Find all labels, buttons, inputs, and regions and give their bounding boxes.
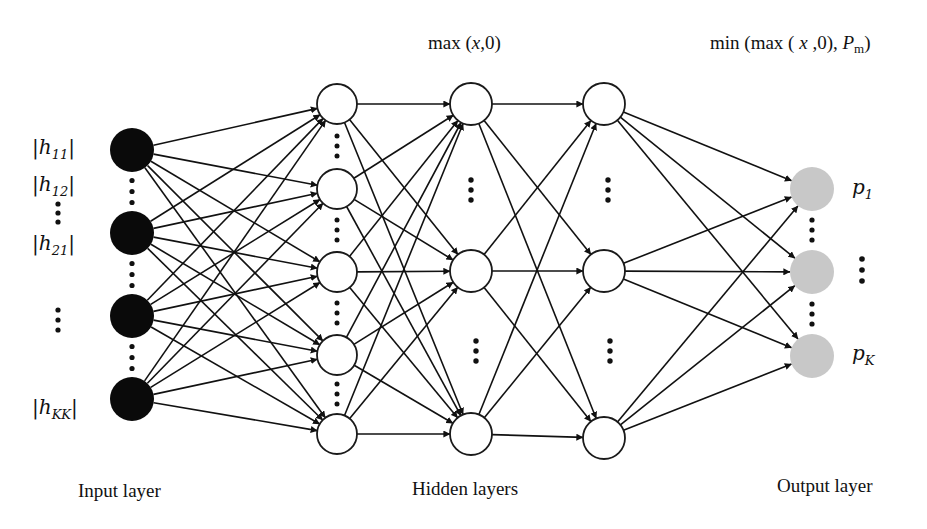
ellipsis-dot — [129, 283, 134, 288]
ellipsis-dot — [468, 197, 473, 202]
ellipsis-dot — [335, 238, 340, 243]
edge — [623, 112, 791, 181]
ellipsis-dot — [468, 177, 473, 182]
output-activation-label: min (max ( x ,0), Pm) — [710, 32, 871, 57]
output-layer-caption: Output layer — [777, 475, 873, 497]
input-node — [110, 211, 154, 255]
ellipsis-dot — [55, 307, 60, 312]
label-sub: 12 — [52, 184, 69, 199]
output-node — [790, 250, 834, 294]
input-node — [110, 128, 154, 172]
act-out-var2: P — [842, 32, 854, 53]
label-base: h — [39, 172, 52, 196]
ellipsis-dot — [605, 177, 610, 182]
label-sub: 11 — [52, 147, 69, 162]
label-base: p — [852, 175, 865, 199]
ellipsis-dot — [335, 392, 340, 397]
input-label-h11: |h11| — [32, 135, 75, 162]
edge — [624, 197, 792, 263]
label-sub: 1 — [865, 187, 873, 202]
ellipsis-dot — [809, 321, 814, 326]
ellipsis-dot — [129, 355, 134, 360]
edge — [625, 271, 790, 272]
ellipsis-dot — [129, 200, 134, 205]
label-base: p — [852, 341, 865, 365]
ellipsis-dot — [335, 311, 340, 316]
edge — [620, 117, 795, 258]
ellipsis-dot — [607, 358, 612, 363]
hidden-layers-caption: Hidden layers — [412, 478, 518, 500]
act-out-prefix: min (max ( — [710, 32, 799, 53]
hidden-node — [583, 417, 625, 459]
edge — [147, 118, 323, 300]
ellipsis-dot — [473, 348, 478, 353]
edge — [154, 193, 318, 228]
ellipsis-dot — [129, 366, 134, 371]
ellipsis-dot — [129, 178, 134, 183]
ellipsis-dot — [335, 144, 340, 149]
ellipsis-dot — [335, 228, 340, 233]
output-label-pK: pK — [852, 341, 875, 368]
ellipsis-dot — [335, 382, 340, 387]
ellipsis-dot — [605, 197, 610, 202]
edge — [154, 154, 318, 185]
edge — [151, 200, 320, 305]
label-base: h — [39, 231, 52, 255]
ellipsis-dot — [55, 317, 60, 322]
ellipsis-dot — [809, 237, 814, 242]
ellipsis-dot — [55, 327, 60, 332]
ellipsis-dot — [468, 187, 473, 192]
ellipsis-dot — [607, 338, 612, 343]
label-sub: 21 — [52, 243, 69, 258]
act-out-mid: ,0), — [808, 32, 843, 53]
edge — [492, 435, 583, 438]
label-sub: KK — [52, 407, 71, 422]
hidden-node — [583, 250, 625, 292]
ellipsis-dot — [335, 134, 340, 139]
hidden-node — [450, 250, 492, 292]
input-node — [110, 294, 154, 338]
ellipsis-dot — [335, 321, 340, 326]
edge — [354, 282, 453, 344]
edge — [145, 120, 326, 381]
act-out-var: x — [799, 32, 807, 53]
act-prefix: max ( — [428, 32, 472, 53]
input-label-h21: |h21| — [32, 231, 75, 258]
edge — [154, 359, 318, 394]
output-node — [790, 334, 834, 378]
ellipsis-dot — [859, 278, 865, 284]
ellipsis-dot — [129, 189, 134, 194]
edge — [624, 364, 792, 430]
ellipsis-dot — [859, 267, 865, 273]
edge — [620, 286, 794, 425]
hidden-node — [317, 335, 357, 375]
input-layer-caption: Input layer — [78, 480, 161, 502]
hidden-node — [450, 413, 492, 455]
ellipsis-dot — [809, 227, 814, 232]
label-base: h — [39, 135, 52, 159]
act-suffix: ,0) — [480, 32, 501, 53]
hidden-node — [450, 83, 492, 125]
ellipsis-dot — [335, 154, 340, 159]
label-base: h — [39, 395, 52, 419]
hidden-node — [583, 83, 625, 125]
act-out-sub2: m — [854, 41, 864, 56]
act-var: x — [472, 32, 480, 53]
edge — [618, 206, 798, 422]
hidden-activation-label: max (x,0) — [428, 32, 501, 54]
ellipsis-dot — [473, 358, 478, 363]
ellipsis-dot — [129, 261, 134, 266]
input-node — [110, 377, 154, 421]
ellipsis-dot — [129, 344, 134, 349]
neural-network-diagram — [0, 0, 927, 529]
ellipsis-dot — [335, 301, 340, 306]
input-label-h12: |h12| — [32, 172, 75, 199]
ellipsis-dot — [129, 272, 134, 277]
edge — [151, 115, 321, 222]
hidden-node — [317, 169, 357, 209]
output-node — [790, 167, 834, 211]
ellipsis-dot — [809, 311, 814, 316]
input-label-hKK: |hKK| — [32, 395, 78, 422]
edge — [154, 108, 318, 145]
edge — [154, 403, 318, 431]
